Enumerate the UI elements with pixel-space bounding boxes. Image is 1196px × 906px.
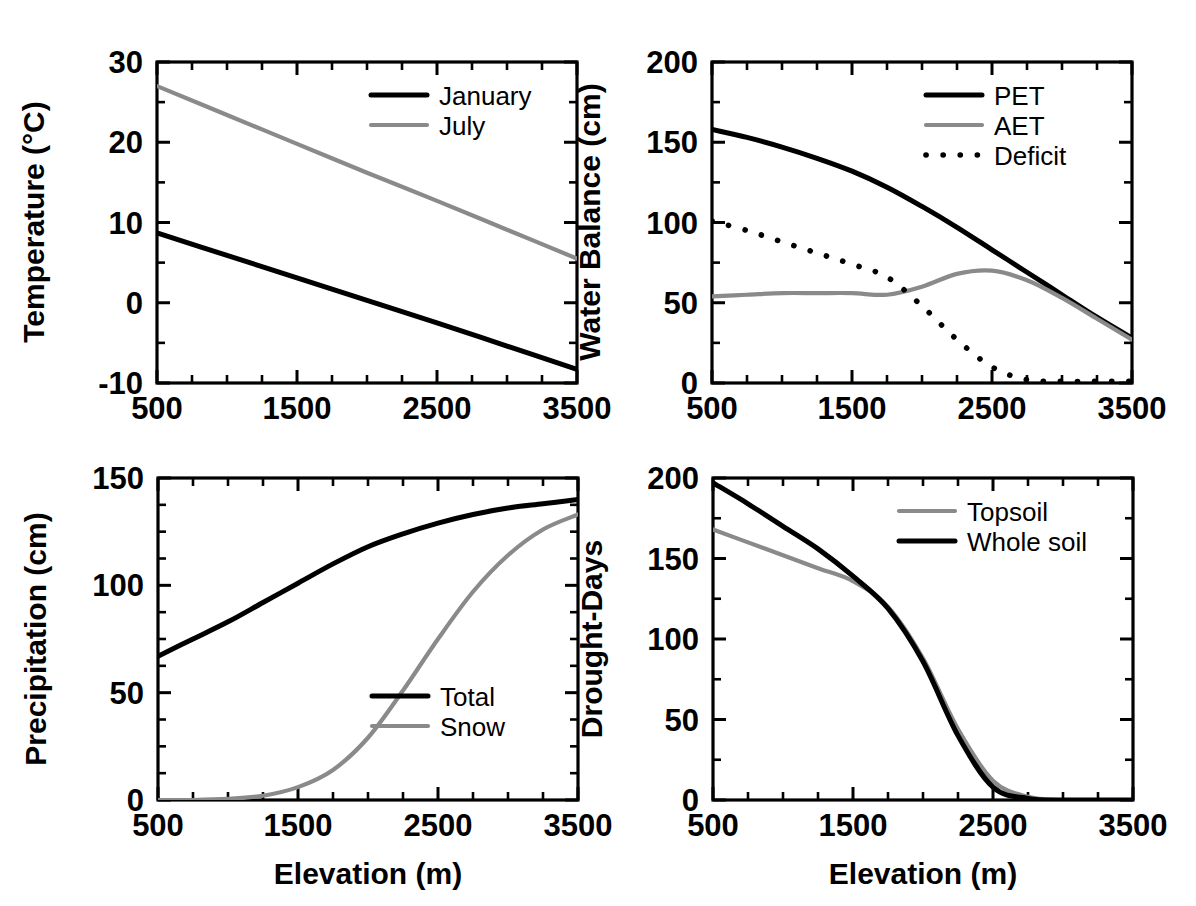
axis-ticks <box>157 62 577 383</box>
y-axis-title: Temperature (°C) <box>17 101 50 342</box>
plot-frame <box>712 62 1132 383</box>
legend-label-pet: PET <box>994 81 1045 111</box>
y-tick-label: 100 <box>92 568 144 603</box>
legend-label-aet: AET <box>994 111 1045 141</box>
y-tick-label: 200 <box>646 45 698 80</box>
y-axis-title: Drought-Days <box>575 540 608 738</box>
legend: TotalSnow <box>372 682 505 742</box>
y-tick-label: 10 <box>109 206 143 241</box>
y-tick-label: 200 <box>647 461 699 496</box>
y-tick-label: 100 <box>647 622 699 657</box>
plot-frame <box>158 478 578 800</box>
data-series-group <box>712 129 1132 381</box>
x-axis-title: Elevation (m) <box>829 857 1017 890</box>
y-tick-label: 30 <box>109 45 143 80</box>
series-line-pet <box>712 129 1132 338</box>
data-series-group <box>713 483 1133 800</box>
x-tick-label: 500 <box>687 808 739 843</box>
x-tick-label: 3500 <box>1098 391 1167 426</box>
series-line-whole-soil <box>713 483 1133 800</box>
series-line-july <box>157 86 577 259</box>
x-axis-title: Elevation (m) <box>274 857 462 890</box>
x-tick-label: 2500 <box>404 808 473 843</box>
x-tick-label: 3500 <box>544 808 613 843</box>
y-tick-label: 0 <box>682 783 699 818</box>
axis-ticks <box>158 478 578 800</box>
x-tick-label: 3500 <box>543 391 612 426</box>
x-tick-label: 1500 <box>263 391 332 426</box>
data-series-group <box>158 499 578 800</box>
x-tick-label: 500 <box>131 391 183 426</box>
x-tick-label: 3500 <box>1099 808 1168 843</box>
y-tick-label: 150 <box>647 542 699 577</box>
data-series-group <box>157 86 577 369</box>
legend: TopsoilWhole soil <box>899 497 1087 557</box>
y-tick-label: 0 <box>126 286 143 321</box>
y-tick-label: 0 <box>681 366 698 401</box>
y-tick-label: 20 <box>109 125 143 160</box>
axis-ticks <box>713 478 1133 800</box>
series-line-aet <box>712 270 1132 339</box>
y-tick-label: 100 <box>646 206 698 241</box>
legend-label-deficit: Deficit <box>994 141 1067 171</box>
x-tick-label: 2500 <box>403 391 472 426</box>
y-tick-label: 150 <box>92 461 144 496</box>
legend: PETAETDeficit <box>926 81 1067 171</box>
legend-label-total: Total <box>440 682 495 712</box>
x-tick-label: 2500 <box>958 391 1027 426</box>
plot-frame <box>157 62 577 383</box>
y-tick-label: 50 <box>664 286 698 321</box>
axis-ticks <box>712 62 1132 383</box>
series-line-topsoil <box>713 530 1133 801</box>
x-tick-label: 1500 <box>818 391 887 426</box>
y-axis-title: Precipitation (cm) <box>19 512 52 765</box>
series-line-snow <box>158 514 578 800</box>
x-tick-label: 1500 <box>819 808 888 843</box>
series-line-deficit <box>712 221 1132 382</box>
legend-label-whole-soil: Whole soil <box>967 527 1087 557</box>
legend-label-july: July <box>439 111 485 141</box>
y-tick-label: 150 <box>646 125 698 160</box>
legend-label-topsoil: Topsoil <box>967 497 1048 527</box>
legend-label-snow: Snow <box>440 712 505 742</box>
y-tick-label: 50 <box>110 676 144 711</box>
x-tick-label: 1500 <box>264 808 333 843</box>
x-tick-label: 500 <box>686 391 738 426</box>
plot-frame <box>713 478 1133 800</box>
legend: JanuaryJuly <box>371 81 532 141</box>
x-tick-label: 2500 <box>959 808 1028 843</box>
series-line-january <box>157 233 577 369</box>
y-tick-label: 0 <box>127 783 144 818</box>
series-line-total <box>158 499 578 656</box>
x-tick-label: 500 <box>132 808 184 843</box>
y-tick-label: 50 <box>665 703 699 738</box>
y-axis-title: Water Balance (cm) <box>573 83 606 360</box>
legend-label-january: January <box>439 81 532 111</box>
figure-root: 500150025003500-100102030Temperature (°C… <box>0 0 1196 906</box>
y-tick-label: -10 <box>98 366 143 401</box>
